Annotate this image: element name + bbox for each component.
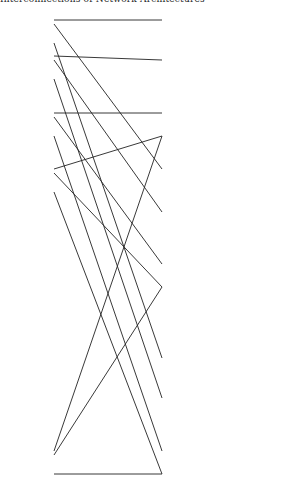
interconnect-line <box>54 56 162 60</box>
interconnect-line <box>54 192 162 474</box>
interconnect-line <box>54 287 162 455</box>
network-diagram <box>0 0 307 490</box>
interconnect-line <box>54 136 162 169</box>
interconnect-line <box>54 43 162 358</box>
interconnect-line <box>54 60 162 212</box>
interconnect-line <box>54 24 162 169</box>
interconnect-line <box>54 79 162 398</box>
